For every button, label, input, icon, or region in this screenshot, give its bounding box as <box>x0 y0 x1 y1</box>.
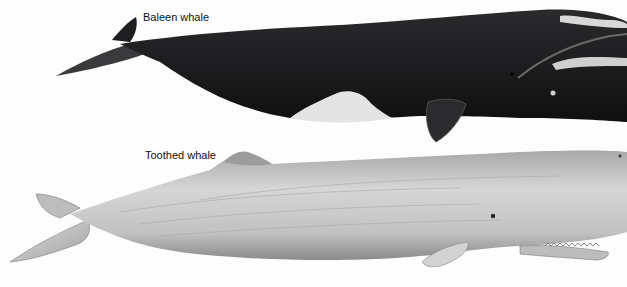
baleen-callosity-spot <box>551 91 556 96</box>
toothed-blowhole <box>619 155 622 158</box>
baleen-flipper <box>426 99 466 142</box>
baleen-body <box>120 10 627 122</box>
toothed-whale-label: Toothed whale <box>145 149 216 161</box>
toothed-eye <box>491 214 495 218</box>
toothed-whale <box>10 151 627 267</box>
baleen-eye <box>510 72 513 75</box>
toothed-teeth <box>545 243 599 246</box>
illustration <box>0 0 627 287</box>
toothed-lower-jaw <box>520 245 608 260</box>
whale-comparison-figure: Baleen whale Toothed whale <box>0 0 627 287</box>
toothed-fluke-lower <box>10 220 90 262</box>
baleen-whale <box>56 10 627 142</box>
baleen-fluke-upper <box>112 17 137 42</box>
baleen-whale-label: Baleen whale <box>143 11 209 23</box>
toothed-body <box>70 151 627 261</box>
toothed-dorsal-hump <box>224 151 272 165</box>
